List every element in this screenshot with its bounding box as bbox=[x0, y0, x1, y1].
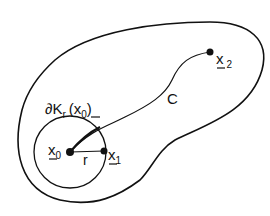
boundary-label: ∂Kr(x0) bbox=[45, 100, 92, 120]
diagram-canvas: ∂Kr(x0) x0 r x1 x2 C bbox=[0, 0, 270, 216]
point-x0 bbox=[66, 148, 74, 156]
label-x2: x2 bbox=[216, 50, 233, 70]
point-x2 bbox=[207, 49, 214, 56]
label-radius: r bbox=[83, 152, 88, 168]
label-x1: x1 bbox=[108, 146, 122, 166]
point-x1 bbox=[101, 148, 108, 155]
label-x0: x0 bbox=[48, 141, 62, 161]
label-curve-c: C bbox=[167, 90, 178, 107]
